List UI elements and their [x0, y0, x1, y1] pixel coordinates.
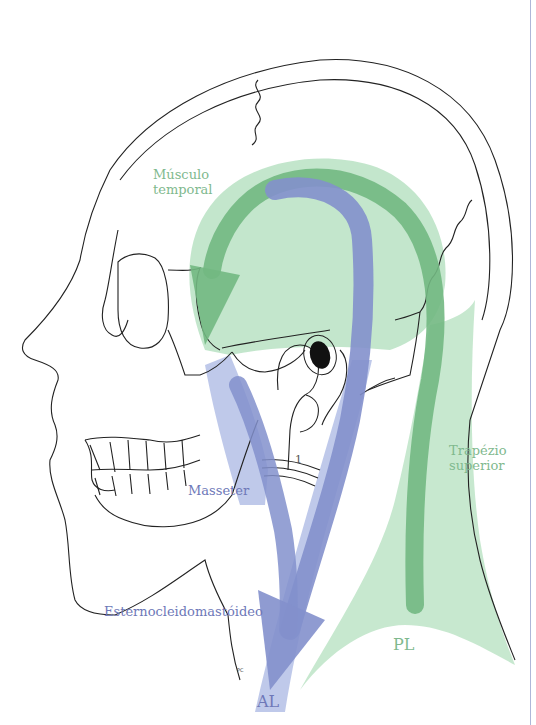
temporal-label-line-2: temporal: [153, 183, 213, 198]
marker-1-label: 1: [295, 454, 302, 467]
posterior-line-label: PL: [393, 636, 414, 654]
trapezius-label-line-1: Trapézio: [449, 444, 506, 459]
masseter-label: Masseter: [188, 484, 249, 499]
temporal-label-line-1: Músculo: [153, 168, 213, 183]
sternocleidomastoid-label: Esternocleidomastóideo: [104, 605, 263, 620]
trapezius-label-line-2: superior: [449, 459, 506, 474]
trapezius-label: Trapézio superior: [449, 444, 506, 474]
temporal-label: Músculo temporal: [153, 168, 213, 198]
anatomy-diagram: Músculo temporal Trapézio superior Masse…: [0, 0, 536, 725]
pc-marker-label: PC: [237, 668, 244, 674]
anterior-line-label: AL: [257, 693, 279, 711]
page-margin-rule: [530, 0, 531, 725]
